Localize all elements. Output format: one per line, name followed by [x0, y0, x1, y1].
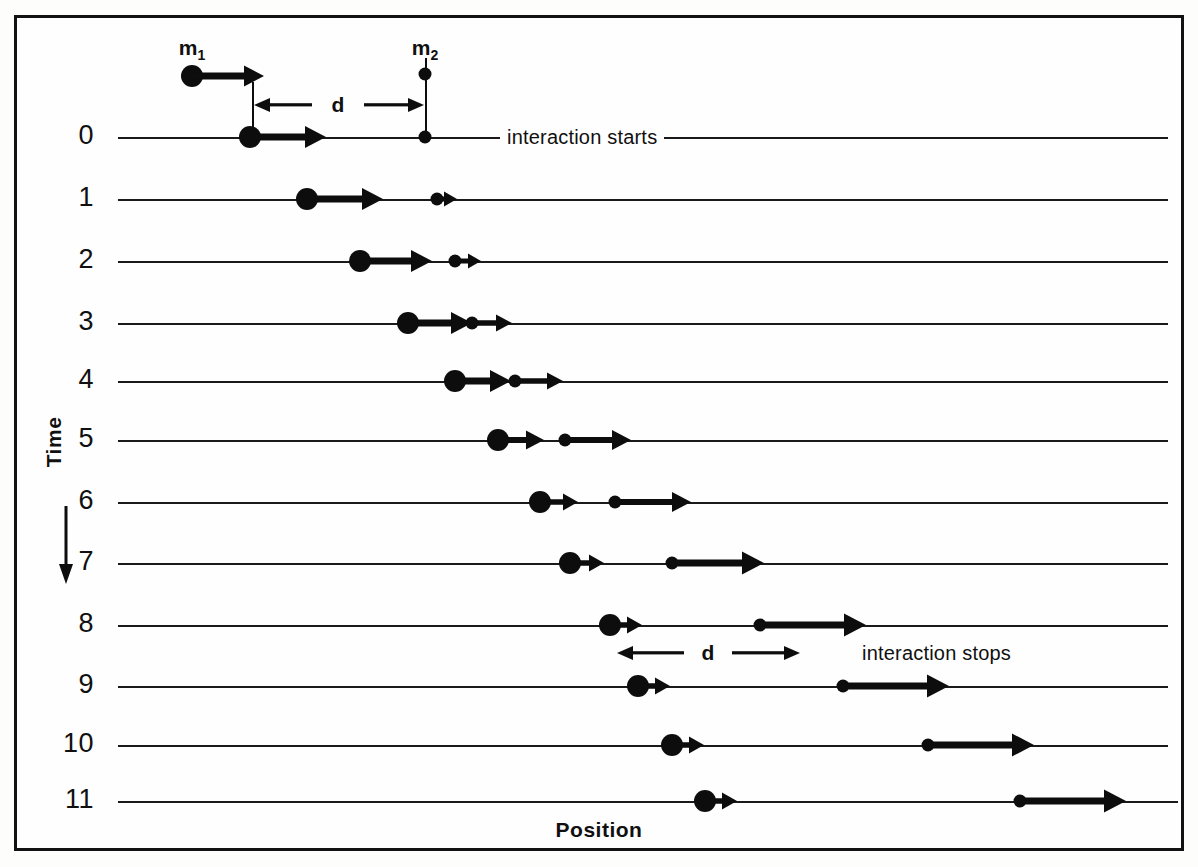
- time-tick-label: 6: [48, 487, 94, 514]
- mass-2-velocity-arrow: [617, 491, 691, 513]
- mass-1-velocity-arrow: [544, 493, 578, 512]
- time-tick-label: 5: [48, 425, 94, 452]
- mass-1-velocity-arrow: [412, 311, 472, 335]
- mass-2-dot: [419, 131, 432, 144]
- position-axis-title: Position: [0, 818, 1198, 842]
- mass-1-velocity-arrow: [254, 125, 326, 149]
- mass-2-velocity-arrow: [517, 372, 563, 391]
- mass-2-velocity-arrow: [845, 674, 949, 699]
- time-tick-label: 7: [48, 548, 94, 575]
- mass-1-velocity-arrow: [676, 736, 704, 755]
- mass-1-velocity-arrow: [642, 677, 670, 696]
- mass-1-velocity-arrow: [502, 430, 544, 451]
- mass-2-velocity-arrow: [439, 191, 457, 208]
- mass-2-velocity-arrow: [457, 253, 481, 270]
- distance-label-top: d: [323, 93, 354, 117]
- mass-2-velocity-arrow: [567, 429, 631, 451]
- time-tick-label: 11: [48, 786, 94, 813]
- mass-1-velocity-arrow: [459, 369, 511, 393]
- time-axis-line: [118, 625, 1168, 627]
- mass-2-velocity-arrow: [674, 551, 764, 576]
- mass-1-velocity-arrow: [709, 792, 737, 811]
- distance-label-bottom: d: [693, 641, 724, 665]
- annotation-interaction-starts: interaction starts: [500, 126, 664, 149]
- time-axis-line: [118, 563, 1168, 565]
- mass-1-velocity-arrow: [311, 187, 383, 211]
- annotation-interaction-stops: interaction stops: [855, 642, 1018, 665]
- time-tick-label: 2: [48, 246, 94, 273]
- time-axis-line: [118, 381, 1168, 383]
- time-axis-line: [118, 323, 1168, 325]
- distance-arrow-right-bottom: [732, 643, 800, 663]
- mass-2-velocity-arrow: [474, 314, 512, 333]
- time-tick-label: 8: [48, 610, 94, 637]
- distance-arrow-right-top: [364, 95, 424, 115]
- figure-canvas: Time Position m1 m2 d d 01234567891011 i…: [0, 0, 1198, 867]
- mass-1-velocity-arrow: [574, 554, 604, 573]
- distance-tick-right: [425, 58, 427, 137]
- mass-1-velocity-arrow: [614, 616, 642, 635]
- time-tick-label: 0: [48, 122, 94, 149]
- time-axis-line: [118, 199, 1168, 201]
- mass-2-velocity-arrow: [762, 613, 866, 638]
- time-axis-line: [118, 440, 1168, 442]
- time-tick-label: 1: [48, 184, 94, 211]
- distance-arrow-left-bottom: [617, 643, 684, 663]
- mass-2-velocity-arrow: [930, 733, 1034, 758]
- time-tick-label: 9: [48, 671, 94, 698]
- time-axis-line: [118, 261, 1168, 263]
- distance-arrow-left-top: [254, 95, 312, 115]
- mass-1-label: m1: [179, 36, 205, 63]
- mass-2-velocity-arrow: [1022, 789, 1126, 814]
- time-tick-label: 4: [48, 366, 94, 393]
- mass-1-velocity-arrow: [364, 249, 432, 273]
- time-tick-label: 3: [48, 308, 94, 335]
- time-tick-label: 10: [48, 730, 94, 757]
